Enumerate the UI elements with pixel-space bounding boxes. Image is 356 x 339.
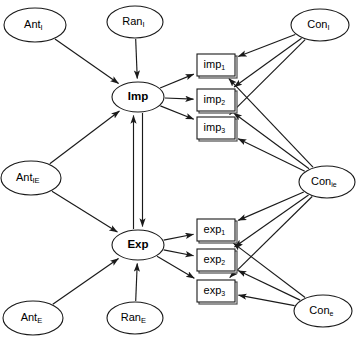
edge-ant_i-to-imp (55, 39, 119, 83)
edge-con_ie-to-exp3 (230, 197, 313, 278)
edge-con_ie-to-imp3 (238, 139, 305, 171)
latent-node-ant_i[interactable]: AntI (4, 8, 66, 42)
latent-node-ant_e[interactable]: AntE (3, 301, 63, 335)
edge-exp-to-exp3 (157, 256, 194, 278)
observed-node-imp3[interactable]: imp3 (197, 117, 237, 141)
latent-node-con_e[interactable]: Cone (294, 295, 352, 327)
node-layer: AntIRanIConIImpAntIEConieExpAntERanECone… (1, 6, 355, 335)
latent-node-ran_e[interactable]: RanE (107, 302, 163, 334)
edge-con_ie-to-exp1 (238, 192, 304, 220)
node-label: Imp (128, 90, 148, 102)
observed-node-imp2[interactable]: imp2 (197, 89, 237, 113)
observed-node-exp3[interactable]: exp3 (197, 280, 237, 304)
path-diagram-svg: AntIRanIConIImpAntIEConieExpAntERanECone… (0, 0, 356, 339)
latent-node-con_ie[interactable]: Conie (299, 166, 355, 198)
latent-node-ant_ie[interactable]: AntIE (1, 161, 61, 195)
diagram-canvas: AntIRanIConIImpAntIEConieExpAntERanECone… (0, 0, 356, 339)
latent-node-exp[interactable]: Exp (112, 230, 164, 260)
observed-node-exp2[interactable]: exp2 (197, 249, 237, 273)
edge-con_ie-to-imp2 (234, 113, 309, 169)
edge-con_i-to-imp3 (230, 40, 306, 115)
edge-ant_ie-to-exp (52, 191, 117, 232)
edge-con_ie-to-exp2 (235, 195, 309, 247)
edge-exp-to-exp2 (164, 250, 194, 256)
observed-node-exp1[interactable]: exp1 (197, 219, 237, 243)
edge-ran_e-to-exp (136, 263, 138, 301)
edge-imp-to-imp3 (160, 106, 193, 119)
edge-ran_i-to-imp (136, 39, 138, 79)
edge-ant_e-to-exp (53, 259, 119, 305)
observed-node-imp1[interactable]: imp1 (197, 54, 237, 78)
edge-ant_ie-to-imp (50, 111, 120, 164)
latent-node-imp[interactable]: Imp (112, 82, 164, 112)
edge-exp-to-exp1 (164, 234, 194, 240)
latent-node-con_i[interactable]: ConI (291, 9, 349, 41)
edge-con_ie-to-imp1 (229, 79, 313, 168)
edge-imp-to-imp2 (165, 98, 194, 99)
edge-layer (50, 35, 313, 306)
node-label: Exp (127, 238, 148, 250)
edge-imp-to-imp1 (160, 74, 194, 88)
edge-con_i-to-imp1 (238, 35, 295, 57)
edge-con_e-to-exp2 (238, 271, 300, 301)
edge-con_e-to-exp1 (233, 243, 305, 297)
latent-node-ran_i[interactable]: RanI (107, 6, 163, 38)
edge-con_e-to-exp3 (238, 295, 294, 305)
